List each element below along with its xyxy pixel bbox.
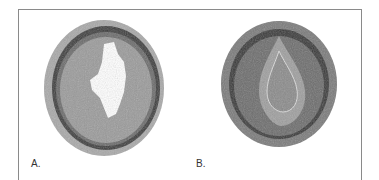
panel-b-image [219,16,339,148]
panel-a-label: A. [31,158,40,169]
panel-a-image [42,14,167,159]
panel-b-label: B. [196,158,205,169]
